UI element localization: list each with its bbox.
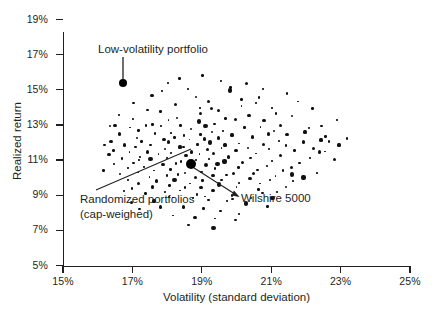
annotation-leader-lines [0, 0, 436, 315]
annotation-randomized-line-1: Randomized portfolios [80, 192, 194, 207]
leader-line-wilshire [191, 166, 238, 196]
leader-arrowhead-wilshire [232, 191, 240, 198]
leader-line-randomized [96, 149, 191, 190]
annotation-low-volatility-portfolio: Low-volatility portfolio [98, 42, 208, 57]
low-volatility-portfolio-marker [119, 79, 127, 87]
annotation-wilshire-5000: Wilshire 5000 [241, 191, 311, 206]
wilshire-5000-marker [186, 159, 196, 169]
annotation-randomized-portfolios: Randomized portfolios (cap-weighed) [80, 192, 194, 221]
annotation-randomized-line-2: (cap-weighed) [80, 207, 194, 222]
scatter-plot-figure: 5%7%9%11%13%15%17%19% 15%17%19%21%23%25%… [0, 0, 436, 315]
